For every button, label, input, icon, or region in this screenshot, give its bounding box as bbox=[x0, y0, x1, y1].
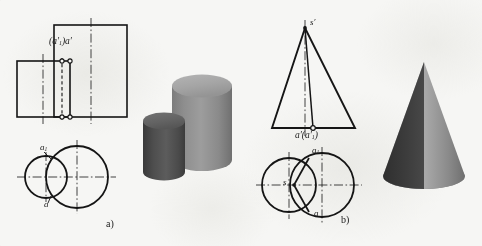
caption-panel-a: a) bbox=[106, 219, 114, 229]
label-a1-top-view-a: a1 bbox=[40, 143, 47, 153]
point-marker-a-prime-1-bottom bbox=[60, 115, 64, 119]
label-a-prime-front-b: a′(a′1) bbox=[295, 131, 318, 141]
cone-render bbox=[383, 62, 465, 189]
label-s-top-view-b: s bbox=[283, 178, 287, 187]
panel-a-front-view bbox=[17, 18, 127, 124]
caption-panel-b: b) bbox=[341, 215, 349, 225]
engineering-drawing-canvas bbox=[0, 0, 482, 246]
small-cylinder-top-face bbox=[143, 113, 185, 130]
label-a-top-view-a: a bbox=[44, 200, 49, 209]
point-marker-a-prime-top bbox=[68, 59, 72, 63]
point-marker-s-prime bbox=[303, 26, 307, 30]
figure-page: (a′1)a′ a1 a a) s′ a′(a′1) a1 a s b) bbox=[0, 0, 482, 246]
panel-a-top-view bbox=[17, 140, 116, 214]
label-a1-top-view-b: a1 bbox=[312, 146, 319, 156]
label-a-prime-front: (a′1)a′ bbox=[49, 37, 72, 47]
large-cylinder-top-face bbox=[172, 75, 232, 98]
point-marker-a-prime-1-top bbox=[60, 59, 64, 63]
panel-b-top-view bbox=[256, 147, 362, 223]
panel-b-front-view bbox=[272, 20, 355, 136]
point-marker-a-prime-bottom bbox=[68, 115, 72, 119]
label-s-prime-apex: s′ bbox=[310, 18, 315, 27]
cone-shadow-surface bbox=[383, 62, 424, 189]
front-view-triangle bbox=[272, 28, 355, 128]
point-marker-s bbox=[292, 183, 296, 187]
cylinder-pair-render bbox=[143, 75, 232, 181]
small-cylinder bbox=[143, 113, 185, 181]
label-a-top-view-b: a bbox=[314, 209, 319, 218]
small-cylinder-body bbox=[143, 121, 185, 180]
